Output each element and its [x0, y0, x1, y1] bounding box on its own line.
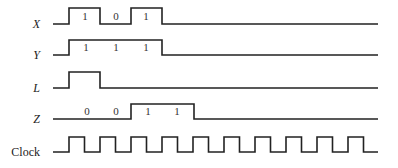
waveform-z [53, 104, 378, 119]
signal-label-l: L [32, 81, 40, 95]
signal-label-x: X [32, 17, 41, 31]
bit-value: 1 [143, 41, 149, 53]
signal-y: Y 111 [33, 40, 378, 62]
signal-label-clock: Clock [11, 145, 40, 159]
bit-value: 1 [145, 105, 151, 117]
signal-z: Z 0011 [33, 104, 378, 126]
timing-diagram: X 101 Y 111 L Z 0011 Clock [0, 0, 398, 168]
bit-value: 0 [84, 105, 90, 117]
signal-l: L [32, 72, 378, 95]
values-z: 0011 [84, 105, 180, 117]
values-y: 111 [83, 41, 149, 53]
signal-label-y: Y [33, 48, 41, 62]
bit-value: 1 [82, 10, 88, 22]
bit-value: 1 [174, 105, 180, 117]
signal-label-z: Z [33, 112, 40, 126]
waveform-x [53, 8, 378, 24]
values-x: 101 [82, 10, 149, 22]
signal-x: X 101 [32, 8, 378, 31]
signal-clock: Clock [11, 137, 378, 159]
bit-value: 0 [113, 10, 119, 22]
waveform-y [53, 40, 378, 55]
bit-value: 0 [113, 105, 119, 117]
bit-value: 1 [143, 10, 149, 22]
bit-value: 1 [83, 41, 89, 53]
waveform-l [53, 72, 378, 88]
waveform-clock [53, 137, 378, 152]
bit-value: 1 [113, 41, 119, 53]
